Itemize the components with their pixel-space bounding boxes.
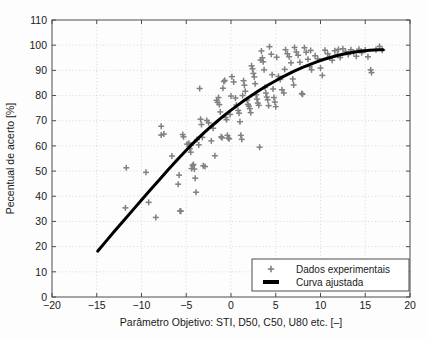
chart-legend: Dados experimentaisCurva ajustada [252,259,409,291]
y-tick-label: 50 [35,165,47,177]
y-tick-label: 60 [35,140,47,152]
x-tick-label: −10 [133,299,151,311]
x-tick-label: −15 [88,299,106,311]
x-tick-label: 0 [228,299,234,311]
y-tick-label: 20 [35,240,47,252]
x-tick-label: 20 [404,299,416,311]
y-tick-label: 70 [35,114,47,126]
y-tick-label: 0 [41,291,47,303]
y-tick-label: 100 [29,39,47,51]
figure-container: −20−15−10−505101520010203040506070809010… [0,0,427,339]
legend-label-dados-experimentais: Dados experimentais [296,264,390,275]
y-tick-label: 30 [35,215,47,227]
x-tick-label: 15 [359,299,371,311]
y-axis-label: Pecentual de acerto [%] [4,103,16,215]
y-tick-label: 90 [35,64,47,76]
legend-label-curva-ajustada: Curva ajustada [296,277,364,288]
y-tick-label: 40 [35,190,47,202]
x-tick-label: −5 [180,299,192,311]
y-tick-label: 10 [35,266,47,278]
x-axis-label: Parâmetro Objetivo: STI, D50, C50, U80 e… [120,316,342,328]
x-tick-label: 5 [273,299,279,311]
y-tick-label: 80 [35,89,47,101]
x-tick-label: 10 [315,299,327,311]
scatter-chart: −20−15−10−505101520010203040506070809010… [0,0,427,339]
y-tick-label: 110 [30,14,47,26]
